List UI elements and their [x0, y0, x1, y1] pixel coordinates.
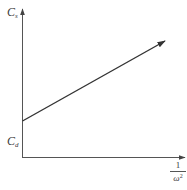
x-axis-label-numerator: 1 — [170, 161, 186, 170]
x-axis-label-denominator-exp: 2 — [180, 173, 183, 179]
x-axis-label: 1 ω2 — [170, 161, 186, 183]
chart-canvas — [0, 0, 187, 190]
y-intercept-label-base: C — [7, 134, 15, 148]
y-intercept-label: Cd — [7, 135, 19, 149]
y-axis-label: Cs — [7, 6, 18, 20]
y-axis-label-sub: s — [15, 12, 18, 20]
y-intercept-label-sub: d — [15, 141, 19, 149]
y-axis-label-base: C — [7, 5, 15, 19]
x-axis-label-denominator: ω2 — [170, 173, 186, 183]
data-line-cs — [23, 41, 166, 121]
fraction-bar — [170, 171, 186, 172]
